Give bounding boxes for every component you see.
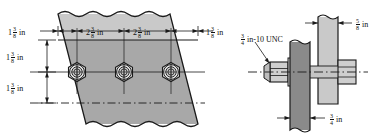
thread-callout-label: 34 in-10 UNC (240, 33, 283, 46)
dim-label-h-3: 238 in (133, 26, 150, 39)
dim-label-light-plate: 58 in (355, 18, 368, 31)
dim-label-h-2: 238 in (86, 26, 103, 39)
dim-label-v-1: 138 in (6, 51, 23, 64)
dark-plate-section (290, 40, 310, 132)
dim-label-v-2: 138 in (6, 82, 23, 95)
engineering-drawing: 138 in 238 in 238 in 138 in 138 in 138 i… (0, 0, 383, 138)
light-plate-section (318, 15, 338, 104)
dim-label-h-4: 138 in (206, 26, 223, 39)
drawing-canvas (0, 0, 383, 138)
dim-label-dark-plate: 34 in (329, 113, 342, 126)
dim-label-h-1: 138 in (8, 26, 25, 39)
vertical-dimension-chain (38, 40, 56, 103)
